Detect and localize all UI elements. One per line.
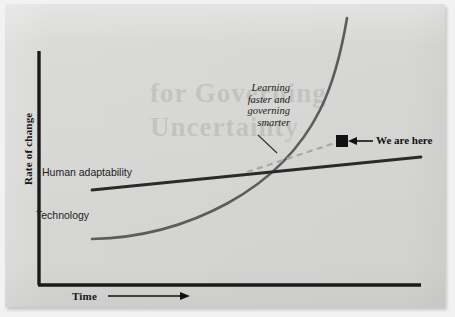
annotation-line-2: faster and xyxy=(198,94,290,106)
technology-curve xyxy=(92,18,347,239)
series-label-technology: Technology xyxy=(36,209,89,221)
right-arrow-icon xyxy=(180,292,190,300)
annotation-line-1: Learning xyxy=(198,82,290,94)
square-marker-icon xyxy=(336,135,348,147)
annotation-line-3: governing xyxy=(198,105,290,117)
chart-canvas xyxy=(0,0,455,317)
x-axis-label: Time xyxy=(72,290,97,302)
annotation-learning-faster: Learning faster and governing smarter xyxy=(198,82,290,128)
y-axis-label: Rate of change xyxy=(22,113,34,185)
left-arrow-icon xyxy=(348,137,357,145)
callout-we-are-here: We are here xyxy=(376,134,432,146)
annotation-leader-line xyxy=(258,135,277,153)
figure-page: for Governing Uncertainty Rate of change… xyxy=(0,0,455,317)
annotation-line-4: smarter xyxy=(198,117,290,129)
series-label-human-adaptability: Human adaptability xyxy=(42,166,132,178)
